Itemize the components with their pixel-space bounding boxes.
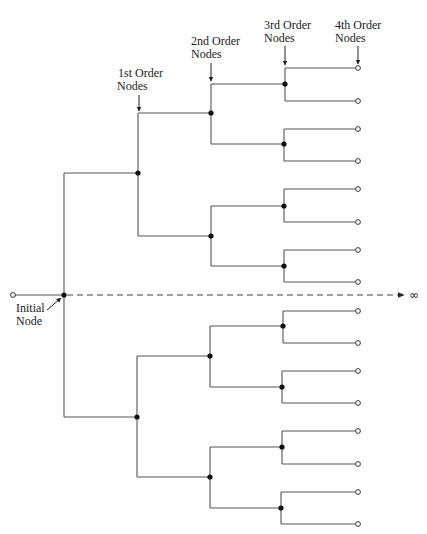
label-third-order: 3rd Order Nodes — [264, 18, 311, 65]
third-order-node — [280, 323, 285, 328]
fourth-order-node — [356, 280, 361, 285]
fourth-order-node — [356, 522, 361, 527]
fourth-order-node — [356, 127, 361, 132]
infinity-symbol: ∞ — [409, 288, 419, 302]
label-second-order-line1: 2nd Order — [191, 34, 240, 48]
first-order-node — [135, 170, 140, 175]
label-first-order-line2: Nodes — [117, 79, 148, 93]
initial-node — [61, 292, 66, 297]
third-order-node — [278, 505, 283, 510]
third-order-node — [281, 203, 286, 208]
third-order-node — [281, 263, 286, 268]
root-terminal-node — [11, 293, 16, 298]
fourth-order-node — [356, 99, 361, 104]
fourth-order-node — [356, 309, 361, 314]
fourth-order-node — [356, 159, 361, 164]
fourth-order-node — [356, 187, 361, 192]
label-initial-line2: Node — [16, 314, 42, 328]
label-first-order: 1st Order Nodes — [117, 66, 163, 111]
label-first-order-line1: 1st Order — [118, 66, 163, 80]
fourth-order-node — [356, 490, 361, 495]
second-order-node — [207, 474, 212, 479]
label-third-order-line2: Nodes — [264, 31, 295, 45]
fourth-order-node — [356, 248, 361, 253]
fourth-order-node — [356, 401, 361, 406]
label-second-order-line2: Nodes — [191, 47, 222, 61]
label-second-order: 2nd Order Nodes — [191, 34, 240, 81]
third-order-node — [282, 81, 287, 86]
tree-nodes — [11, 66, 361, 527]
fourth-order-node — [356, 429, 361, 434]
fourth-order-node — [356, 462, 361, 467]
label-initial-line1: Initial — [16, 301, 45, 315]
fourth-order-node — [356, 66, 361, 71]
label-third-order-line1: 3rd Order — [264, 18, 311, 32]
second-order-node — [207, 353, 212, 358]
third-order-node — [279, 444, 284, 449]
third-order-node — [279, 384, 284, 389]
fourth-order-node — [356, 220, 361, 225]
third-order-node — [281, 141, 286, 146]
fourth-order-node — [356, 341, 361, 346]
label-fourth-order: 4th Order Nodes — [335, 18, 381, 64]
label-fourth-order-line2: Nodes — [335, 31, 366, 45]
second-order-node — [208, 233, 213, 238]
label-initial-node: Initial Node — [16, 298, 61, 328]
arrow-initial-node-icon — [47, 298, 61, 310]
second-order-node — [208, 110, 213, 115]
fourth-order-node — [356, 369, 361, 374]
decision-tree-diagram: 1st Order Nodes 2nd Order Nodes 3rd Orde… — [0, 0, 427, 534]
first-order-node — [134, 414, 139, 419]
label-fourth-order-line1: 4th Order — [335, 18, 381, 32]
